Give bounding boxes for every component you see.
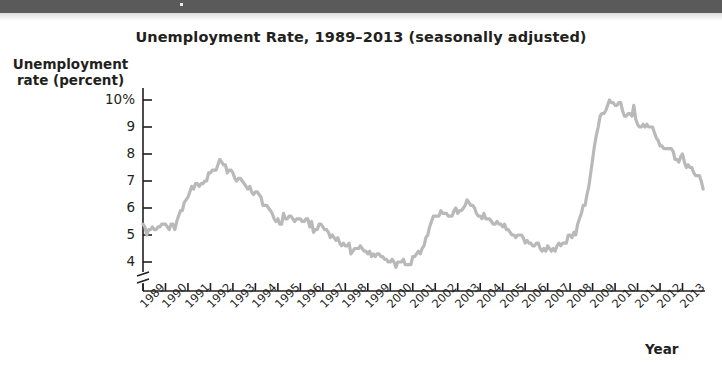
y-tick-label: 8 [75,145,135,161]
y-tick-label: 6 [75,199,135,215]
y-tick-label: 5 [75,226,135,242]
y-tick-label: 7 [75,172,135,188]
y-tick-label: 10% [75,91,135,107]
y-tick-label: 9 [75,118,135,134]
data-series-group [143,100,703,267]
y-tick-label: 4 [75,253,135,269]
axes-group [137,88,705,291]
unemployment-rate-line [143,100,703,267]
